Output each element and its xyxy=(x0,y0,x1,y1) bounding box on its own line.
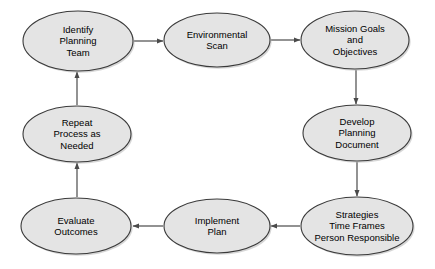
node-environmental-scan[interactable] xyxy=(164,13,270,67)
node-layer xyxy=(21,11,415,257)
node-repeat-process-as-needed[interactable] xyxy=(23,106,131,162)
flowchart-canvas: Identify Planning TeamEnvironmental Scan… xyxy=(0,0,435,269)
node-develop-planning-document[interactable] xyxy=(303,105,411,161)
node-strategies-time-frames-person-responsible[interactable] xyxy=(301,197,413,255)
node-evaluate-outcomes[interactable] xyxy=(21,198,131,254)
node-mission-goals-and-objectives[interactable] xyxy=(301,11,409,69)
flowchart-svg xyxy=(0,0,435,269)
node-identify-planning-team[interactable] xyxy=(23,11,133,71)
node-implement-plan[interactable] xyxy=(164,199,270,253)
